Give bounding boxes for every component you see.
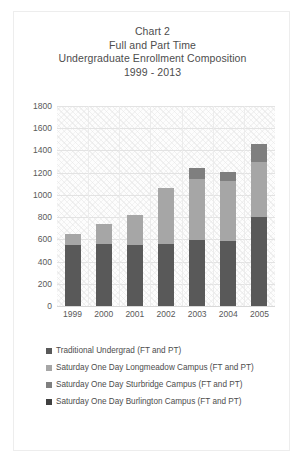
chart-title-line-4: 1999 - 2013 bbox=[14, 66, 291, 80]
gridline bbox=[57, 128, 275, 129]
bar-segment[interactable] bbox=[96, 224, 112, 243]
y-axis-tick-label: 1800 bbox=[33, 101, 52, 111]
gridline bbox=[57, 173, 275, 174]
bar-2004[interactable] bbox=[220, 172, 236, 306]
vertical-gridline bbox=[150, 106, 151, 306]
x-axis-tick-label: 2002 bbox=[157, 309, 176, 319]
legend-swatch-icon bbox=[46, 348, 52, 354]
bar-segment[interactable] bbox=[220, 181, 236, 241]
legend-item[interactable]: Traditional Undergrad (FT and PT) bbox=[46, 342, 286, 359]
y-axis-tick-label: 200 bbox=[38, 279, 52, 289]
y-axis-tick-label: 1600 bbox=[33, 123, 52, 133]
y-axis-tick-label: 1400 bbox=[33, 145, 52, 155]
bar-segment[interactable] bbox=[251, 217, 267, 306]
bar-segment[interactable] bbox=[96, 244, 112, 306]
bar-segment[interactable] bbox=[127, 245, 143, 306]
legend-item-label: Saturday One Day Sturbridge Campus (FT a… bbox=[56, 380, 242, 389]
y-axis-tick-label: 1000 bbox=[33, 190, 52, 200]
bar-segment[interactable] bbox=[251, 144, 267, 162]
vertical-gridline bbox=[88, 106, 89, 306]
legend-item-label: Traditional Undergrad (FT and PT) bbox=[56, 346, 181, 355]
y-axis-tick-label: 800 bbox=[38, 212, 52, 222]
bar-segment[interactable] bbox=[251, 162, 267, 217]
legend-item[interactable]: Saturday One Day Sturbridge Campus (FT a… bbox=[46, 376, 286, 393]
chart-title-line-2: Full and Part Time bbox=[14, 39, 291, 53]
bar-2002[interactable] bbox=[158, 188, 174, 306]
chart-title-line-3: Undergraduate Enrollment Composition bbox=[14, 52, 291, 66]
chart-title: Chart 2 Full and Part Time Undergraduate… bbox=[14, 25, 291, 79]
chart-title-line-1: Chart 2 bbox=[14, 25, 291, 39]
chart-legend: Traditional Undergrad (FT and PT)Saturda… bbox=[46, 342, 286, 410]
bar-segment[interactable] bbox=[127, 215, 143, 244]
legend-item-label: Saturday One Day Longmeadow Campus (FT a… bbox=[56, 363, 254, 372]
chart-frame: Chart 2 Full and Part Time Undergraduate… bbox=[13, 11, 290, 451]
gridline bbox=[57, 306, 275, 307]
y-axis-tick-label: 1200 bbox=[33, 168, 52, 178]
legend-item-label: Saturday One Day Burlington Campus (FT a… bbox=[56, 397, 242, 406]
bar-segment[interactable] bbox=[189, 168, 205, 179]
vertical-gridline bbox=[182, 106, 183, 306]
vertical-gridline bbox=[119, 106, 120, 306]
bar-segment[interactable] bbox=[65, 234, 81, 246]
x-axis-tick-label: 2004 bbox=[219, 309, 238, 319]
bar-segment[interactable] bbox=[65, 245, 81, 306]
bar-2003[interactable] bbox=[189, 168, 205, 306]
gridline bbox=[57, 106, 275, 107]
plot-area: 180016001400120010008006004002000 199920… bbox=[57, 106, 275, 306]
gridline bbox=[57, 150, 275, 151]
bar-2005[interactable] bbox=[251, 144, 267, 306]
x-axis-tick-label: 2005 bbox=[250, 309, 269, 319]
y-axis-tick-label: 600 bbox=[38, 234, 52, 244]
legend-item[interactable]: Saturday One Day Longmeadow Campus (FT a… bbox=[46, 359, 286, 376]
x-axis-tick-label: 2001 bbox=[125, 309, 144, 319]
bar-segment[interactable] bbox=[220, 241, 236, 306]
legend-swatch-icon bbox=[46, 382, 52, 388]
legend-item[interactable]: Saturday One Day Burlington Campus (FT a… bbox=[46, 393, 286, 410]
x-axis-tick-label: 1999 bbox=[63, 309, 82, 319]
bar-segment[interactable] bbox=[220, 172, 236, 181]
bar-2000[interactable] bbox=[96, 224, 112, 306]
bar-segment[interactable] bbox=[189, 240, 205, 306]
bar-segment[interactable] bbox=[158, 244, 174, 306]
x-axis-tick-label: 2003 bbox=[188, 309, 207, 319]
legend-swatch-icon bbox=[46, 399, 52, 405]
y-axis-tick-label: 0 bbox=[47, 301, 52, 311]
legend-swatch-icon bbox=[46, 365, 52, 371]
x-axis-tick-label: 2000 bbox=[94, 309, 113, 319]
bar-segment[interactable] bbox=[189, 179, 205, 241]
vertical-gridline bbox=[213, 106, 214, 306]
bar-1999[interactable] bbox=[65, 234, 81, 306]
vertical-gridline bbox=[244, 106, 245, 306]
bar-segment[interactable] bbox=[158, 188, 174, 244]
bar-2001[interactable] bbox=[127, 215, 143, 306]
y-axis-tick-label: 400 bbox=[38, 257, 52, 267]
